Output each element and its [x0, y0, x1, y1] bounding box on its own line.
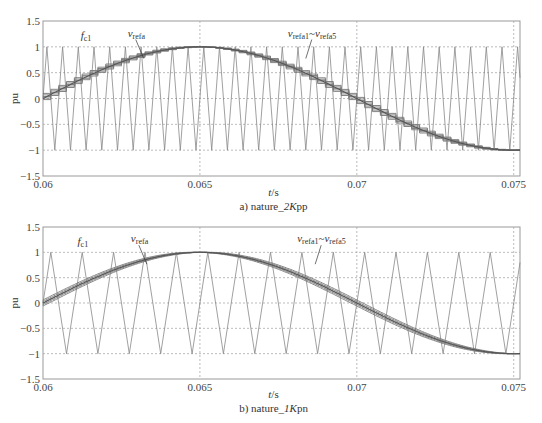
y-tick-label: 1.5: [26, 15, 40, 27]
x-axis-label: t/s: [268, 186, 278, 198]
y-tick-label: 0.5: [26, 272, 40, 284]
y-axis-label: pu: [8, 297, 20, 309]
y-tick-label: 0: [35, 297, 41, 309]
x-tick-label: 0.07: [347, 381, 367, 393]
y-axis-label: pu: [8, 93, 20, 105]
y-tick-label: −0.5: [20, 322, 40, 334]
y-tick-label: −1: [28, 348, 40, 360]
x-tick-label: 0.075: [501, 381, 526, 393]
x-tick-label: 0.06: [33, 178, 53, 190]
x-tick-label: 0.075: [501, 178, 526, 190]
chart-panel-b: −1.5−1−0.500.511.50.060.0650.070.075fc1v…: [8, 221, 527, 415]
x-tick-label: 0.07: [347, 178, 367, 190]
y-tick-label: 0: [35, 93, 41, 105]
y-tick-label: 0.5: [26, 67, 40, 79]
x-axis-label: t/s: [268, 388, 278, 400]
y-tick-label: −1: [28, 144, 40, 156]
y-tick-label: 1.5: [26, 221, 40, 233]
y-tick-label: 1: [35, 246, 41, 258]
x-tick-label: 0.065: [188, 381, 213, 393]
panel-caption: b) nature_1Kpn: [239, 402, 308, 415]
y-tick-label: 1: [35, 41, 41, 53]
x-tick-label: 0.06: [33, 381, 53, 393]
y-tick-label: −0.5: [20, 118, 40, 130]
chart-panel-a: −1.5−1−0.500.511.50.060.0650.070.075fc1v…: [8, 15, 527, 213]
x-tick-label: 0.065: [188, 178, 213, 190]
panel-caption: a) nature_2Kpp: [239, 200, 308, 213]
figure: −1.5−1−0.500.511.50.060.0650.070.075fc1v…: [0, 0, 542, 423]
